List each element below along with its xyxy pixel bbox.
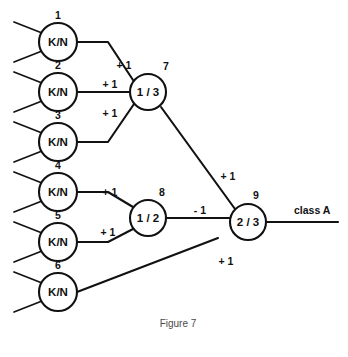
input-stub-node-3: [14, 122, 42, 133]
node-value-2: K/N: [48, 86, 68, 98]
output-edge-group: class A: [266, 204, 338, 222]
input-stub-node-3: [14, 151, 42, 162]
node-value-5: K/N: [48, 236, 68, 248]
edge-e7-9: [161, 107, 235, 209]
node-6: K/N6: [39, 259, 77, 311]
weight-label-e2-7: + 1: [103, 78, 118, 90]
node-5: K/N5: [39, 209, 77, 261]
node-value-9: 2 / 3: [237, 216, 259, 228]
input-stub-node-2: [14, 72, 42, 83]
input-stub-node-4: [14, 201, 42, 212]
input-stub-node-5: [14, 222, 42, 233]
node-value-4: K/N: [48, 186, 68, 198]
weight-label-e7-9: + 1: [221, 170, 236, 182]
node-index-9: 9: [253, 189, 259, 201]
input-stub-node-6: [14, 301, 42, 312]
output-class-label: class A: [294, 204, 331, 216]
node-4: K/N4: [39, 159, 77, 211]
node-index-7: 7: [163, 60, 169, 72]
figure-caption: Figure 7: [160, 318, 197, 329]
node-index-5: 5: [55, 209, 61, 221]
node-2: K/N2: [39, 59, 77, 111]
input-stub-node-1: [14, 22, 42, 33]
node-index-8: 8: [159, 186, 165, 198]
network-diagram-svg: class A K/N1K/N2K/N3K/N4K/N5K/N61 / 371 …: [0, 0, 348, 357]
weight-label-e3-7: + 1: [103, 107, 118, 119]
input-stub-node-4: [14, 172, 42, 183]
node-1: K/N1: [39, 9, 77, 61]
caption-group: Figure 7: [160, 318, 197, 329]
node-value-1: K/N: [48, 36, 68, 48]
edge-e6-9: [77, 238, 218, 292]
node-value-7: 1 / 3: [137, 86, 159, 98]
node-value-8: 1 / 2: [137, 212, 159, 224]
input-stub-node-5: [14, 251, 42, 262]
node-index-3: 3: [55, 109, 61, 121]
weight-label-e1-7: + 1: [117, 59, 132, 71]
node-8: 1 / 28: [130, 186, 166, 236]
input-stub-group: [14, 22, 42, 312]
input-stub-node-2: [14, 101, 42, 112]
node-index-1: 1: [55, 9, 61, 21]
node-3: K/N3: [39, 109, 77, 161]
weight-label-e4-8: + 1: [103, 186, 118, 198]
node-index-6: 6: [55, 259, 61, 271]
node-value-6: K/N: [48, 286, 68, 298]
input-stub-node-6: [14, 272, 42, 283]
node-7: 1 / 37: [130, 60, 169, 110]
weight-label-e6-9: + 1: [219, 255, 234, 267]
node-9: 2 / 39: [230, 189, 266, 240]
node-index-4: 4: [55, 159, 61, 171]
weight-label-e5-8: + 1: [101, 226, 116, 238]
node-index-2: 2: [55, 59, 61, 71]
figure-diagram-container: class A K/N1K/N2K/N3K/N4K/N5K/N61 / 371 …: [0, 0, 348, 357]
input-stub-node-1: [14, 51, 42, 62]
node-value-3: K/N: [48, 136, 68, 148]
weight-label-e8-9: - 1: [194, 204, 206, 216]
